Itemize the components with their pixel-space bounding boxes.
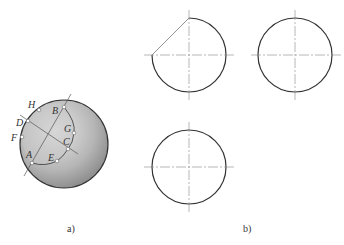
top-view [144,122,234,213]
point-c [66,147,70,151]
front-view [144,10,234,100]
side-view [251,10,341,100]
point-b [62,105,66,109]
figure-canvas: HBDFGCAE a) b) [0,0,344,245]
point-f [20,135,24,139]
panel-a: HBDFGCAE a) [10,94,108,235]
point-label-g: G [64,123,71,134]
point-a [30,161,34,165]
point-label-d: D [15,117,24,128]
point-label-c: C [63,136,70,147]
point-label-b: B [52,105,58,116]
caption-a: a) [67,223,75,235]
point-d [26,119,30,123]
point-g [72,131,76,135]
caption-b: b) [243,223,251,235]
point-e [55,159,59,163]
point-label-a: A [25,149,33,160]
point-label-e: E [47,152,54,163]
point-label-h: H [27,99,36,110]
panel-b: b) [144,10,341,235]
point-label-f: F [10,132,18,143]
point-h [37,108,41,112]
